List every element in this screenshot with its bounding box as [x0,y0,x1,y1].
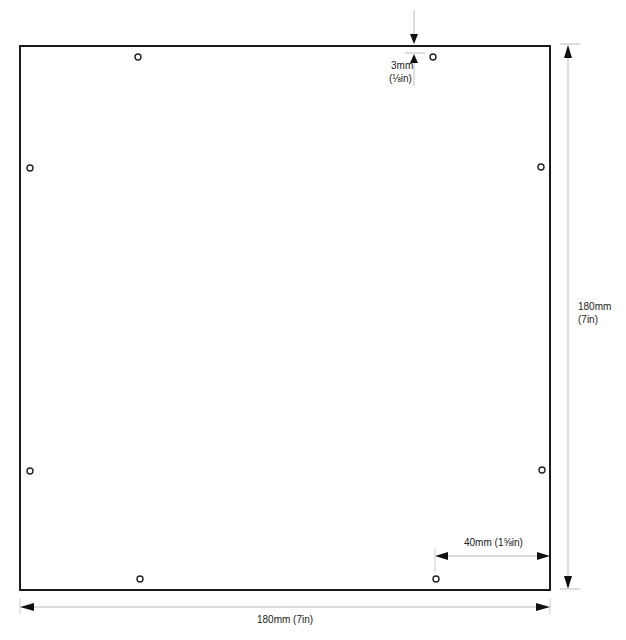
hole [27,468,33,474]
hole [539,467,545,473]
arrow-right-icon [536,603,550,611]
width-label: 180mm (7in) [257,614,313,626]
height-label-mm: 180mm [578,301,611,313]
arrow-left-icon [20,603,34,611]
hole [27,165,33,171]
hole [538,164,544,170]
arrow-down-icon [410,34,418,44]
width-dimension [20,598,550,614]
arrow-right-icon [537,552,550,560]
panel-outline [20,46,550,590]
mounting-holes [27,54,545,582]
edge-offset-label-in: (⅛in) [389,73,412,85]
height-label-in: (7in) [578,314,598,326]
hole [433,576,439,582]
hole-spacing-label: 40mm (1⅝in) [464,537,523,549]
template-drawing [0,0,626,640]
arrow-down-icon [564,576,572,589]
hole [430,54,436,60]
arrow-left-icon [435,552,448,560]
height-dimension [560,44,580,589]
hole [137,576,143,582]
hole-spacing-dimension [435,548,550,572]
edge-offset-label-mm: 3mm [391,60,413,72]
hole [135,54,141,60]
arrow-up-icon [564,45,572,58]
